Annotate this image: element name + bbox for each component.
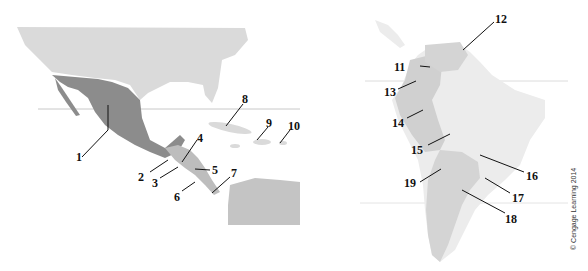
map-label-2: 2 xyxy=(138,171,144,183)
map-label-12: 12 xyxy=(495,13,507,25)
hispaniola xyxy=(253,139,271,145)
map-label-5: 5 xyxy=(212,164,218,176)
map-label-11: 11 xyxy=(394,61,405,73)
map-label-19: 19 xyxy=(404,177,416,189)
map-label-1: 1 xyxy=(76,151,82,163)
mexico-region xyxy=(52,75,185,158)
cuba xyxy=(208,120,253,137)
map-label-17: 17 xyxy=(512,192,524,204)
map-label-10: 10 xyxy=(288,120,300,132)
central-america-right xyxy=(375,20,405,48)
jamaica xyxy=(230,144,240,148)
map-label-7: 7 xyxy=(231,167,237,179)
map-label-6: 6 xyxy=(174,191,180,203)
usa-landmass xyxy=(17,27,248,103)
map-label-9: 9 xyxy=(266,117,272,129)
map-label-18: 18 xyxy=(505,213,517,225)
map-label-3: 3 xyxy=(152,177,158,189)
venezuela-colombia-left xyxy=(228,178,300,225)
map-label-4: 4 xyxy=(197,132,203,144)
map-label-13: 13 xyxy=(384,86,396,98)
map-label-15: 15 xyxy=(411,144,423,156)
copyright-credit: © Cengage Learning 2014 xyxy=(570,168,577,250)
map-label-8: 8 xyxy=(242,93,248,105)
map-canvas xyxy=(0,0,588,271)
map-label-14: 14 xyxy=(392,117,404,129)
map-label-16: 16 xyxy=(526,170,538,182)
